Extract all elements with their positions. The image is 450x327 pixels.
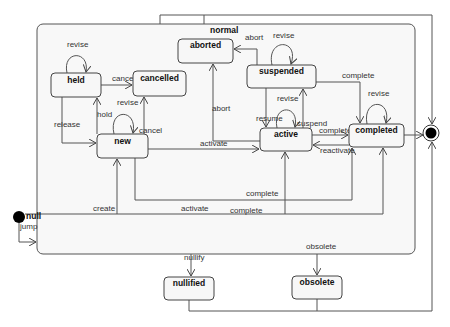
label-normal-nullify: nullify — [184, 253, 204, 262]
state-suspended[interactable]: suspended — [247, 65, 316, 88]
composite-state-label: normal — [210, 25, 238, 35]
state-obsolete-label: obsolete — [300, 277, 335, 287]
state-new-label: new — [114, 136, 131, 146]
state-completed-label: completed — [355, 125, 398, 135]
label-suspended-resume: resume — [256, 114, 283, 123]
state-completed[interactable]: completed — [349, 124, 404, 147]
state-obsolete[interactable]: obsolete — [292, 276, 342, 299]
label-new-hold: hold — [97, 110, 112, 119]
label-suspended-complete: complete — [342, 71, 375, 80]
state-cancelled[interactable]: cancelled — [133, 71, 186, 96]
label-held-release: release — [54, 120, 81, 129]
label-normal-obsolete: obsolete — [306, 242, 337, 251]
label-new-activate: activate — [200, 139, 228, 148]
initial-state-label: null — [26, 211, 41, 221]
label-active-complete: complete — [319, 126, 352, 135]
label-completed-reactivate: reactivate — [320, 146, 355, 155]
label-active-revise: revise — [277, 94, 299, 103]
state-active[interactable]: active — [260, 128, 312, 151]
state-aborted-label: aborted — [190, 40, 221, 50]
label-null-jump: jump — [19, 222, 38, 231]
state-held[interactable]: held — [51, 73, 101, 97]
label-suspended-revise: revise — [273, 31, 295, 40]
state-diagram: normal — [0, 0, 450, 327]
state-nullified-label: nullified — [173, 278, 206, 288]
state-new[interactable]: new — [97, 134, 148, 158]
label-held-revise: revise — [67, 40, 89, 49]
state-active-label: active — [274, 129, 298, 139]
label-completed-revise: revise — [368, 89, 390, 98]
label-null-complete: complete — [230, 206, 263, 215]
state-held-label: held — [67, 75, 84, 85]
state-nullified[interactable]: nullified — [164, 277, 214, 300]
initial-state-dot — [13, 211, 25, 223]
label-held-cancel: cancel — [112, 74, 135, 83]
label-active-abort: abort — [212, 104, 231, 113]
state-suspended-label: suspended — [259, 66, 304, 76]
label-null-activate: activate — [181, 204, 209, 213]
final-state[interactable] — [423, 125, 439, 141]
label-suspended-abort: abort — [245, 33, 264, 42]
state-aborted[interactable]: aborted — [178, 39, 233, 63]
label-new-complete: complete — [246, 189, 279, 198]
final-state-dot — [426, 128, 437, 139]
label-null-create: create — [93, 204, 116, 213]
state-cancelled-label: cancelled — [140, 73, 179, 83]
label-new-revise: revise — [117, 98, 139, 107]
